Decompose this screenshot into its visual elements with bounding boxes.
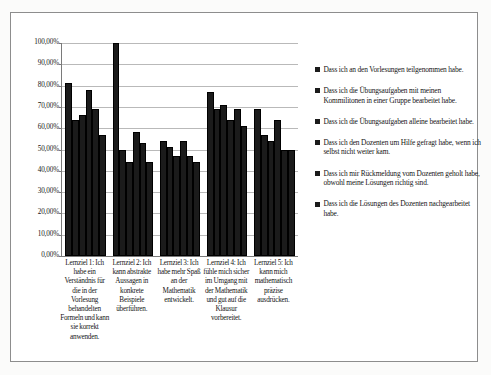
y-axis-tickmark (59, 256, 62, 257)
y-axis: 0,00%10,00%20,00%30,00%40,00%50,00%60,00… (15, 25, 59, 243)
bar[interactable] (79, 115, 86, 256)
bar[interactable] (146, 162, 153, 256)
bar-group (207, 43, 247, 256)
legend-label: Dass ich die Übungsaufgaben alleine bear… (323, 117, 473, 127)
legend-swatch-icon (315, 119, 320, 124)
y-axis-tick-label: 70,00% (15, 103, 59, 110)
bar[interactable] (268, 141, 275, 256)
bar[interactable] (220, 105, 227, 256)
bar-group (254, 43, 294, 256)
bar[interactable] (234, 109, 241, 256)
bar[interactable] (133, 132, 140, 256)
x-axis: Lernziel 1: Ich habe ein Verständnis für… (61, 259, 297, 359)
legend-swatch-icon (315, 202, 320, 207)
y-axis-tick-label: 10,00% (15, 231, 59, 238)
legend-label: Dass ich den Dozenten um Hilfe gefragt h… (323, 138, 483, 157)
legend-item[interactable]: Dass ich die Lösungen des Dozenten nachg… (315, 199, 483, 218)
bar[interactable] (227, 120, 234, 256)
legend-label: Dass ich an den Vorlesungen teilgenommen… (323, 65, 463, 75)
bar[interactable] (126, 162, 133, 256)
bar[interactable] (160, 141, 167, 256)
legend-swatch-icon (315, 171, 320, 176)
bar[interactable] (288, 150, 295, 257)
legend-item[interactable]: Dass ich an den Vorlesungen teilgenommen… (315, 65, 483, 75)
chart-legend: Dass ich an den Vorlesungen teilgenommen… (315, 65, 483, 230)
plot-area-wrapper: 0,00%10,00%20,00%30,00%40,00%50,00%60,00… (11, 13, 311, 361)
legend-swatch-icon (315, 67, 320, 72)
bar[interactable] (140, 143, 147, 256)
bar[interactable] (193, 162, 200, 256)
legend-item[interactable]: Dass ich die Übungsaufgaben alleine bear… (315, 117, 483, 127)
x-axis-category-label: Lernziel 5: Ich kann mich mathematisch p… (249, 259, 298, 305)
bar-group (160, 43, 200, 256)
x-axis-category-label: Lernziel 1: Ich habe ein Verständnis für… (60, 259, 109, 342)
bar[interactable] (65, 83, 72, 256)
legend-item[interactable]: Dass ich den Dozenten um Hilfe gefragt h… (315, 138, 483, 157)
bar[interactable] (167, 147, 174, 256)
bar[interactable] (187, 156, 194, 256)
y-axis-tick-label: 100,00% (15, 39, 59, 46)
bar[interactable] (261, 135, 268, 256)
chart-frame: 0,00%10,00%20,00%30,00%40,00%50,00%60,00… (10, 12, 478, 362)
y-axis-tick-label: 80,00% (15, 82, 59, 89)
legend-swatch-icon (315, 88, 320, 93)
bar[interactable] (173, 156, 180, 256)
y-axis-tick-label: 60,00% (15, 125, 59, 132)
bar[interactable] (180, 141, 187, 256)
legend-label: Dass ich mir Rückmeldung vom Dozenten ge… (323, 169, 483, 188)
bar[interactable] (207, 92, 214, 256)
y-axis-tick-label: 40,00% (15, 167, 59, 174)
bar[interactable] (119, 150, 126, 257)
legend-item[interactable]: Dass ich mir Rückmeldung vom Dozenten ge… (315, 169, 483, 188)
y-axis-tick-label: 50,00% (15, 146, 59, 153)
y-axis-tick-label: 0,00% (15, 252, 59, 259)
chart-page: 0,00%10,00%20,00%30,00%40,00%50,00%60,00… (0, 0, 491, 375)
y-axis-tick-label: 30,00% (15, 188, 59, 195)
bar[interactable] (72, 120, 79, 256)
bar-group (65, 43, 105, 256)
bars-layer (62, 43, 298, 256)
y-axis-tick-label: 20,00% (15, 210, 59, 217)
bar[interactable] (99, 135, 106, 256)
bar[interactable] (254, 109, 261, 256)
bar[interactable] (241, 126, 248, 256)
bar[interactable] (86, 90, 93, 256)
legend-label: Dass ich die Übungsaufgaben mit meinen K… (323, 86, 483, 105)
bar[interactable] (92, 109, 99, 256)
plot-area (61, 43, 298, 257)
legend-swatch-icon (315, 140, 320, 145)
x-axis-category-label: Lernziel 3: Ich habe mehr Spaß an der Ma… (154, 259, 203, 305)
bar[interactable] (113, 43, 120, 256)
bar[interactable] (214, 109, 221, 256)
legend-label: Dass ich die Lösungen des Dozenten nachg… (323, 199, 483, 218)
bar[interactable] (274, 120, 281, 256)
bar-group (113, 43, 153, 256)
y-axis-tick-label: 90,00% (15, 61, 59, 68)
bar[interactable] (281, 150, 288, 257)
x-axis-category-label: Lernziel 2: Ich kann abstrakte Aussagen … (107, 259, 156, 314)
x-axis-category-label: Lernziel 4: Ich fühle mich sicher im Umg… (202, 259, 251, 323)
legend-item[interactable]: Dass ich die Übungsaufgaben mit meinen K… (315, 86, 483, 105)
